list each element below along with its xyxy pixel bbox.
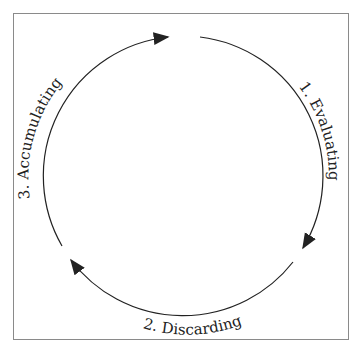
arc-discarding [71,260,293,316]
arc-accumulating [43,37,168,246]
label-evaluating: 1. Evaluating [295,78,343,181]
cycle-diagram: 1. Evaluating 2. Discarding 3. Accumulat… [0,0,361,354]
label-accumulating: 3. Accumulating [14,74,66,201]
arc-evaluating [200,37,323,248]
